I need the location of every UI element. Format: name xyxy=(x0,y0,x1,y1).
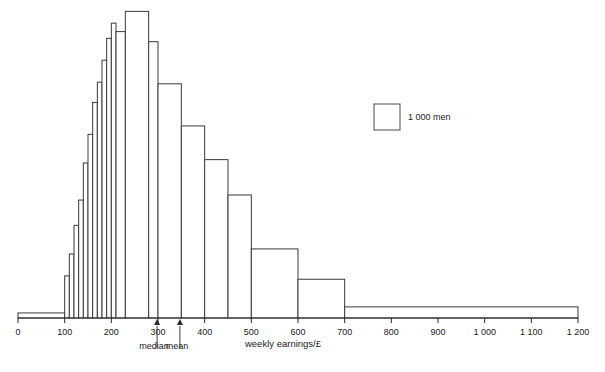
histogram-bar xyxy=(228,195,251,318)
histogram-bar xyxy=(298,279,345,318)
x-axis-title: weekly earnings/£ xyxy=(244,338,322,349)
median-arrow-icon xyxy=(154,319,160,325)
histogram-bar xyxy=(74,225,79,318)
x-axis-tick-label: 900 xyxy=(430,327,445,337)
x-axis-tick-label: 300 xyxy=(150,327,165,337)
histogram-bar xyxy=(149,42,158,318)
histogram-bar xyxy=(65,276,70,318)
histogram-bar xyxy=(158,84,181,318)
x-axis-tick-label: 500 xyxy=(244,327,259,337)
mean-label: mean xyxy=(166,341,189,351)
x-axis-tick-label: 200 xyxy=(104,327,119,337)
histogram-bar xyxy=(79,200,84,318)
histogram-bar xyxy=(88,134,93,318)
histogram-bar xyxy=(345,307,578,318)
histogram-bars xyxy=(18,11,578,318)
x-axis-tick-label: 700 xyxy=(337,327,352,337)
histogram-bar xyxy=(93,102,98,318)
x-axis-tick-label: 100 xyxy=(57,327,72,337)
x-axis-tick-label: 1 000 xyxy=(473,327,496,337)
histogram-bar xyxy=(251,249,298,318)
histogram-svg: 01002003004005006007008009001 0001 1001 … xyxy=(0,0,605,372)
histogram-bar xyxy=(205,160,228,318)
histogram-bar xyxy=(97,82,102,318)
histogram-bar xyxy=(116,32,125,318)
histogram-bar xyxy=(111,23,116,318)
chart-legend: 1 000 men xyxy=(374,104,451,130)
histogram-chart: 01002003004005006007008009001 0001 1001 … xyxy=(0,0,605,372)
legend-label: 1 000 men xyxy=(408,112,451,122)
histogram-bar xyxy=(83,163,88,318)
histogram-bar xyxy=(125,11,148,318)
x-axis-tick-labels: 01002003004005006007008009001 0001 1001 … xyxy=(15,327,589,337)
x-axis-ticks xyxy=(18,318,578,323)
histogram-bar xyxy=(181,126,204,318)
histogram-bar xyxy=(18,313,65,318)
median-label: median xyxy=(139,341,169,351)
x-axis-tick-label: 1 100 xyxy=(520,327,543,337)
mean-arrow-icon xyxy=(177,319,183,325)
histogram-bar xyxy=(107,38,112,318)
x-axis-tick-label: 0 xyxy=(15,327,20,337)
histogram-bar xyxy=(69,254,74,318)
x-axis-tick-label: 400 xyxy=(197,327,212,337)
x-axis-tick-label: 600 xyxy=(290,327,305,337)
x-axis-tick-label: 800 xyxy=(384,327,399,337)
histogram-bar xyxy=(102,60,107,318)
legend-swatch-square xyxy=(374,104,400,130)
x-axis-tick-label: 1 200 xyxy=(567,327,590,337)
